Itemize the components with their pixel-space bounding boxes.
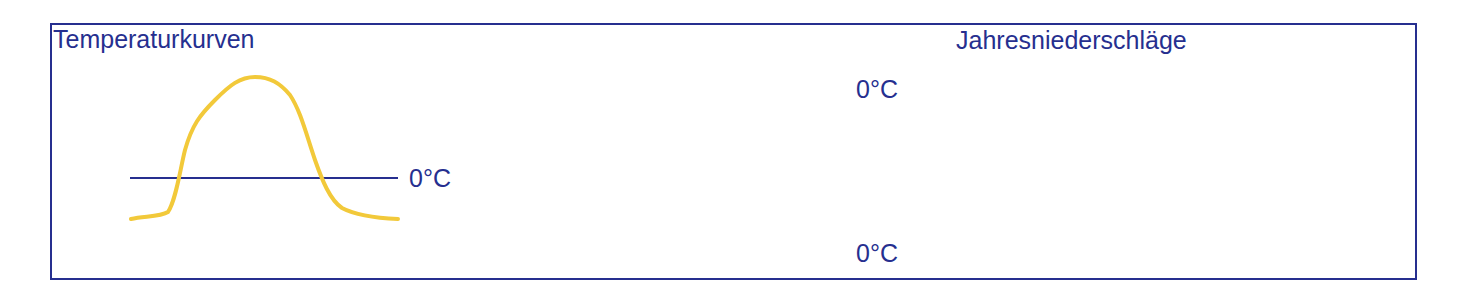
temperature-curve bbox=[131, 77, 398, 219]
zero-degree-label-left: 0°C bbox=[409, 166, 451, 191]
zero-degree-label-middle-lower: 0°C bbox=[856, 241, 898, 266]
diagram-graphics bbox=[0, 0, 1461, 286]
zero-degree-label-middle-upper: 0°C bbox=[856, 77, 898, 102]
left-temperature-chart bbox=[130, 77, 398, 219]
